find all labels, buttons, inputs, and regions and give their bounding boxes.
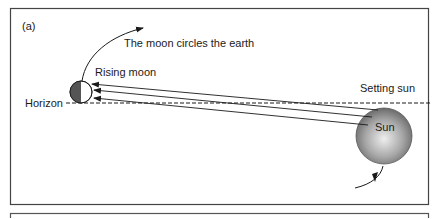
horizon-label: Horizon (25, 97, 63, 109)
moon-sun-diagram: (a) The moon circles the earth Rising mo… (0, 0, 437, 218)
sun-label: Sun (375, 121, 395, 133)
light-ray-3 (94, 98, 368, 125)
moon-circles-label: The moon circles the earth (124, 37, 254, 49)
moon-icon (70, 81, 92, 103)
sun-motion-arrow (355, 166, 383, 188)
setting-sun-label: Setting sun (360, 82, 415, 94)
panel-label: (a) (22, 20, 35, 32)
light-ray-1 (92, 84, 378, 110)
next-panel-frame (11, 214, 429, 219)
rising-moon-label: Rising moon (95, 66, 156, 78)
